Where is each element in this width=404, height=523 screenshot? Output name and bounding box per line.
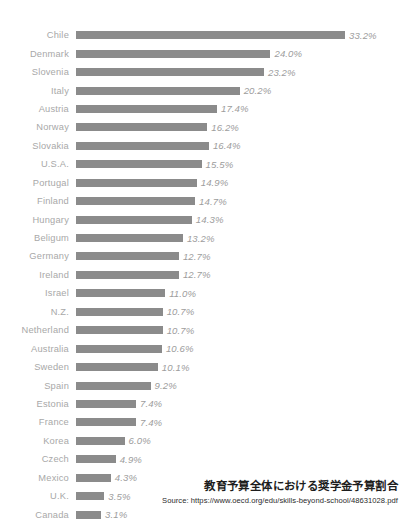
bar-category-label: N.Z. [0,307,76,317]
bar-row: Beligum13.2% [0,229,404,247]
bar [76,400,136,408]
bar-row: Netherland10.7% [0,321,404,339]
bar-track: 10.6% [76,343,404,354]
bar-category-label: Beligum [0,233,76,243]
bar [76,197,195,205]
bar [76,216,192,224]
bar-category-label: Korea [0,436,76,446]
bar-category-label: Netherland [0,325,76,335]
bar-row: France7.4% [0,413,404,431]
chart-page: Chile33.2%Denmark24.0%Slovenia23.2%Italy… [0,0,404,523]
bar-value-label: 7.4% [136,417,162,428]
bar-category-label: Germany [0,251,76,261]
bar [76,50,270,58]
chart-source: Source: https://www.oecd.org/edu/skills-… [98,496,398,505]
bar-track: 12.7% [76,251,404,262]
bar-category-label: Norway [0,122,76,132]
bar-value-label: 17.4% [217,103,249,114]
bar [76,252,179,260]
bar-value-label: 23.2% [264,67,296,78]
bar [76,87,240,95]
bar-value-label: 11.0% [165,288,196,299]
bar-category-label: Slovenia [0,67,76,77]
bar-category-label: Canada [0,510,76,520]
bar-category-label: Austria [0,104,76,114]
bar-track: 23.2% [76,67,404,78]
bar-row: Israel11.0% [0,284,404,302]
bar-category-label: Portugal [0,178,76,188]
bar [76,68,264,76]
bar-row: N.Z.10.7% [0,303,404,321]
bar-row: Denmark24.0% [0,44,404,62]
bar-row: Slovakia16.4% [0,137,404,155]
bar-category-label: Chile [0,30,76,40]
bar-category-label: Mexico [0,473,76,483]
bar [76,455,116,463]
bar-track: 20.2% [76,85,404,96]
bar-track: 11.0% [76,288,404,299]
bar [76,105,217,113]
bar-track: 15.5% [76,159,404,170]
bar-track: 12.7% [76,269,404,280]
bar-value-label: 10.6% [162,343,194,354]
bar-row: Italy20.2% [0,81,404,99]
bar-value-label: 3.1% [101,509,127,520]
bar-value-label: 14.7% [195,196,227,207]
bar-row: Chile33.2% [0,26,404,44]
bar-category-label: Finland [0,196,76,206]
bar-chart: Chile33.2%Denmark24.0%Slovenia23.2%Italy… [0,26,404,523]
bar-row: Slovenia23.2% [0,63,404,81]
bar-category-label: France [0,417,76,427]
bar-row: Australia10.6% [0,339,404,357]
bar [76,160,202,168]
bar [76,308,163,316]
bar-track: 10.7% [76,306,404,317]
bar-track: 3.1% [76,509,404,520]
bar-value-label: 24.0% [270,48,302,59]
bar-value-label: 10.7% [163,306,195,317]
bar-track: 16.4% [76,140,404,151]
bar-track: 17.4% [76,103,404,114]
bar [76,289,165,297]
bar-value-label: 12.7% [179,269,211,280]
bar [76,326,163,334]
bar-value-label: 10.7% [163,325,195,336]
bar-track: 14.9% [76,177,404,188]
bar-track: 10.1% [76,362,404,373]
bar-row: Sweden10.1% [0,358,404,376]
bar-category-label: Hungary [0,215,76,225]
bar-value-label: 6.0% [125,435,151,446]
bar [76,179,197,187]
bar-value-label: 13.2% [183,233,215,244]
bar-row: Korea6.0% [0,432,404,450]
bar [76,345,162,353]
bar [76,511,101,519]
bar-track: 13.2% [76,233,404,244]
bar-row: Estonia7.4% [0,395,404,413]
bar-category-label: U.S.A. [0,159,76,169]
bar-category-label: Spain [0,381,76,391]
bar-row: Spain9.2% [0,376,404,394]
bar-category-label: Sweden [0,362,76,372]
bar-row: Hungary14.3% [0,210,404,228]
bar-value-label: 16.2% [207,122,239,133]
bar-row: Austria17.4% [0,100,404,118]
bar-category-label: Slovakia [0,141,76,151]
bar-value-label: 16.4% [209,140,241,151]
bar-track: 6.0% [76,435,404,446]
bar-category-label: Ireland [0,270,76,280]
bar [76,382,151,390]
bar-row: Canada3.1% [0,505,404,523]
bar-row: Finland14.7% [0,192,404,210]
bar-track: 14.7% [76,196,404,207]
bar-track: 33.2% [76,30,404,41]
bar-value-label: 14.3% [192,214,224,225]
bar-category-label: Australia [0,344,76,354]
bar-value-label: 15.5% [202,159,234,170]
bar [76,363,158,371]
bar-value-label: 7.4% [136,398,162,409]
bar-row: Norway16.2% [0,118,404,136]
chart-title: 教育予算全体における奨学金予算割合 [98,479,398,494]
bar-category-label: Italy [0,86,76,96]
bar-value-label: 12.7% [179,251,211,262]
